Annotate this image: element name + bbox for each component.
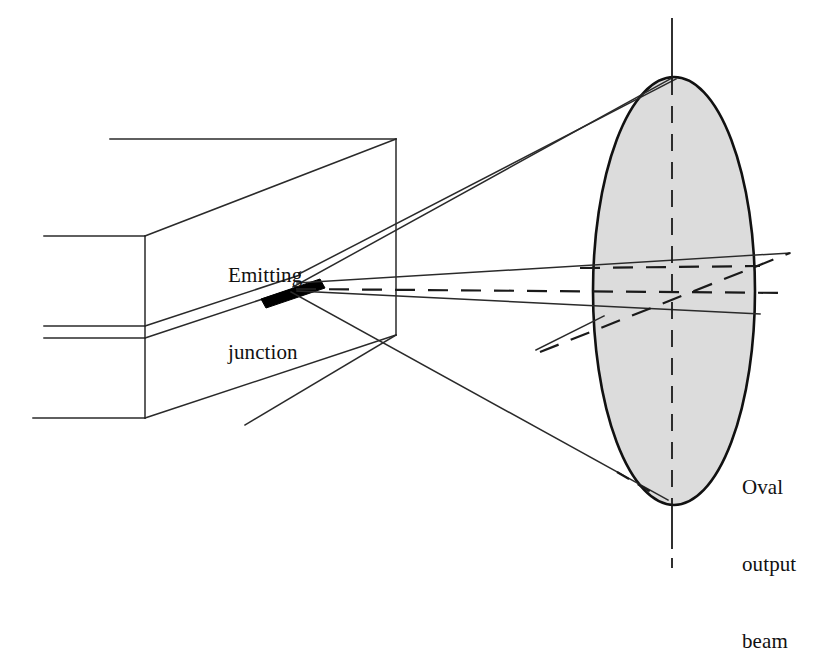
oval-output-beam-label: Oval output beam [742,424,796,652]
emitting-junction-label: Emitting junction [228,212,302,417]
emitting-junction-label-line1: Emitting [228,263,302,289]
oval-output-beam-label-line1: Oval [742,475,796,501]
oval-output-beam-label-line2: output [742,552,796,578]
oval-output-beam-label-line3: beam [742,629,796,652]
emitting-junction-label-line2: junction [228,340,302,366]
diode-body-group [33,139,396,418]
